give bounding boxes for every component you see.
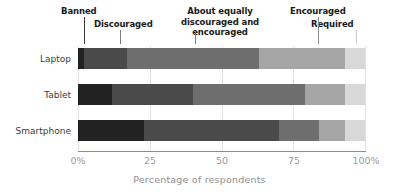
table-row: Laptop	[78, 48, 365, 69]
table-row: Smartphone	[78, 120, 365, 141]
legend-callout-discouraged: Discouraged	[94, 19, 153, 30]
leader-line-encouraged	[318, 17, 319, 44]
x-tick-0: 0%	[70, 155, 85, 166]
x-tick-75: 75	[288, 155, 300, 166]
x-tick-25: 25	[144, 155, 156, 166]
bar-segment	[319, 120, 345, 141]
bar-segment	[345, 48, 365, 69]
legend-callout-about-equally: About equally discouraged and encouraged	[158, 6, 282, 38]
row-label-tablet: Tablet	[44, 90, 71, 100]
bar-segment	[259, 48, 345, 69]
bar-segment	[84, 48, 127, 69]
leader-line-required	[356, 30, 357, 44]
bar-segment	[279, 120, 319, 141]
row-label-laptop: Laptop	[40, 54, 71, 64]
bar-segment	[78, 84, 112, 105]
bar-segment	[193, 84, 305, 105]
row-label-smartphone: Smartphone	[16, 126, 71, 136]
bar-segment	[112, 84, 192, 105]
leader-line-discouraged	[120, 30, 121, 44]
legend-callout-banned: Banned	[61, 6, 97, 17]
bar-segment	[345, 120, 365, 141]
bar-segment	[127, 48, 259, 69]
stacked-bar-chart: Banned Discouraged About equally discour…	[0, 0, 399, 195]
bar-segment	[78, 120, 144, 141]
table-row: Tablet	[78, 84, 365, 105]
bar-segment	[345, 84, 365, 105]
bar-segment	[144, 120, 279, 141]
bar-segment	[305, 84, 345, 105]
plot-area: Laptop Tablet Smartphone	[78, 46, 365, 150]
x-tick-100: 100%	[352, 155, 379, 166]
x-axis-label: Percentage of respondents	[0, 174, 399, 185]
x-tick-50: 50	[216, 155, 228, 166]
legend-callout-encouraged: Encouraged	[290, 6, 346, 17]
leader-line-about-equally	[195, 31, 196, 44]
x-axis-line	[78, 151, 366, 152]
leader-line-banned	[84, 17, 85, 44]
gridline	[365, 46, 366, 150]
